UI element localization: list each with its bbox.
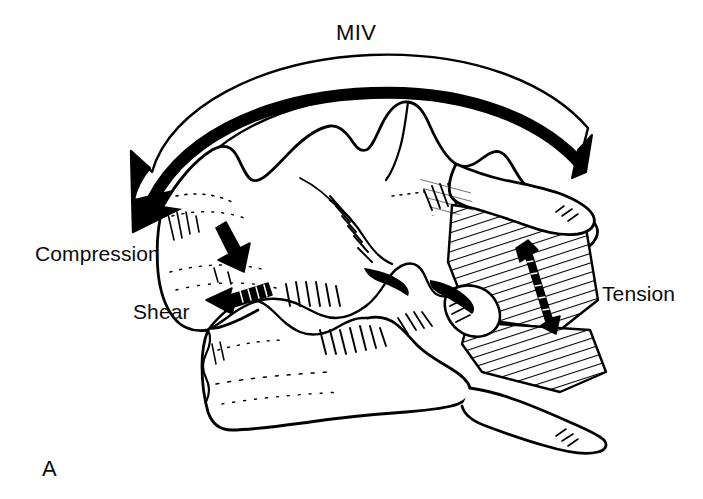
miv-label: MIV [336, 22, 376, 44]
figure-panel: MIV Compression Shear Tension A [0, 0, 703, 499]
panel-label: A [42, 458, 57, 480]
compression-label: Compression [35, 243, 160, 264]
shear-label: Shear [133, 301, 190, 322]
tension-label: Tension [602, 283, 675, 304]
